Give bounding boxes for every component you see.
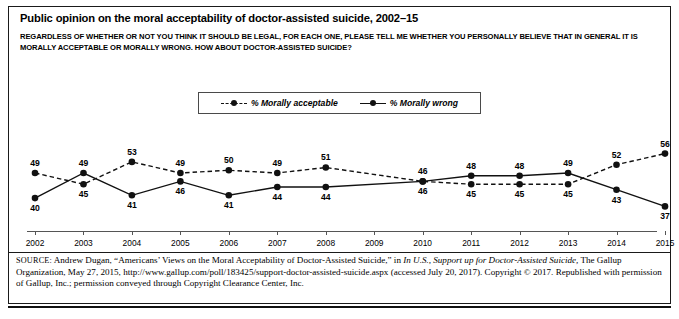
data-label-acceptable: 46 <box>418 166 428 176</box>
chart-svg <box>8 120 671 238</box>
data-point <box>323 164 330 171</box>
source-label: SOURCE: <box>16 256 52 265</box>
legend-label-morally-acceptable: % Morally acceptable <box>251 98 338 108</box>
legend-item-morally-acceptable: % Morally acceptable <box>221 98 338 108</box>
data-point <box>129 159 136 166</box>
x-axis-label-2014: 2014 <box>607 238 626 248</box>
data-label-wrong: 44 <box>273 192 283 202</box>
x-axis-tick <box>423 231 424 235</box>
x-axis-label-2006: 2006 <box>220 238 239 248</box>
x-axis-label-2010: 2010 <box>413 238 432 248</box>
page-title: Public opinion on the moral acceptabilit… <box>20 12 640 25</box>
legend-item-morally-wrong: % Morally wrong <box>360 98 458 108</box>
data-point <box>516 173 523 180</box>
data-label-wrong: 49 <box>79 158 89 168</box>
data-point <box>662 150 669 157</box>
data-label-acceptable: 50 <box>224 155 234 165</box>
data-label-acceptable: 51 <box>321 152 331 162</box>
line-chart-plot <box>8 120 671 238</box>
x-axis-label-2008: 2008 <box>316 238 335 248</box>
legend-label-morally-wrong: % Morally wrong <box>390 98 458 108</box>
data-point <box>226 167 233 174</box>
data-label-wrong: 41 <box>127 200 137 210</box>
data-label-wrong: 48 <box>466 161 476 171</box>
data-label-acceptable: 45 <box>563 189 573 199</box>
x-axis-tick <box>568 231 569 235</box>
data-point <box>177 178 184 185</box>
data-point <box>80 181 87 188</box>
data-label-wrong: 46 <box>418 186 428 196</box>
data-point <box>32 170 39 177</box>
source-note: SOURCE: Andrew Dugan, “Americans’ Views … <box>16 255 664 290</box>
x-axis-tick <box>617 231 618 235</box>
bottom-rule <box>8 306 671 308</box>
data-point <box>468 181 475 188</box>
x-axis-label-2013: 2013 <box>559 238 578 248</box>
data-point <box>565 170 572 177</box>
data-label-acceptable: 45 <box>466 189 476 199</box>
data-label-wrong: 37 <box>660 211 670 221</box>
data-point <box>613 161 620 168</box>
data-point <box>323 184 330 191</box>
dashed-line-marker-icon <box>221 99 247 108</box>
x-axis-label-2009: 2009 <box>365 238 384 248</box>
x-axis-tick <box>180 231 181 235</box>
data-point <box>516 181 523 188</box>
x-axis-label-2002: 2002 <box>26 238 45 248</box>
data-point <box>274 170 281 177</box>
chart-legend: % Morally acceptable % Morally wrong <box>198 92 481 114</box>
x-axis-tick <box>35 231 36 235</box>
data-label-acceptable: 45 <box>515 189 525 199</box>
x-axis-label-2012: 2012 <box>510 238 529 248</box>
x-axis-tick <box>374 231 375 235</box>
data-point <box>662 203 669 210</box>
x-axis-label-2007: 2007 <box>268 238 287 248</box>
x-axis-tick <box>665 231 666 235</box>
data-point <box>177 170 184 177</box>
data-point <box>274 184 281 191</box>
solid-line-marker-icon <box>360 99 386 108</box>
x-axis-tick <box>520 231 521 235</box>
data-label-acceptable: 53 <box>127 147 137 157</box>
x-axis-tick <box>326 231 327 235</box>
data-label-acceptable: 49 <box>176 158 186 168</box>
data-point <box>419 178 426 185</box>
data-point <box>565 181 572 188</box>
data-point <box>129 192 136 199</box>
source-divider <box>9 252 670 253</box>
x-axis-tick <box>471 231 472 235</box>
x-axis-label-2011: 2011 <box>462 238 480 248</box>
data-label-acceptable: 56 <box>660 139 670 149</box>
x-axis-label-2004: 2004 <box>123 238 142 248</box>
data-label-wrong: 49 <box>563 158 573 168</box>
data-point <box>226 192 233 199</box>
x-axis-label-2005: 2005 <box>171 238 190 248</box>
x-axis-line <box>27 231 657 232</box>
x-axis-tick <box>83 231 84 235</box>
data-label-wrong: 41 <box>224 200 234 210</box>
data-label-acceptable: 49 <box>30 158 40 168</box>
data-label-wrong: 44 <box>321 192 331 202</box>
x-axis-tick <box>229 231 230 235</box>
figure-container: Public opinion on the moral acceptabilit… <box>0 0 679 319</box>
data-label-wrong: 46 <box>176 186 186 196</box>
data-label-acceptable: 45 <box>79 189 89 199</box>
data-label-acceptable: 49 <box>273 158 283 168</box>
x-axis-label-2015: 2015 <box>656 238 675 248</box>
x-axis-label-2003: 2003 <box>74 238 93 248</box>
question-text: REGARDLESS OF WHETHER OR NOT YOU THINK I… <box>20 32 660 53</box>
x-axis-tick <box>277 231 278 235</box>
data-label-wrong: 48 <box>515 161 525 171</box>
data-point <box>32 195 39 202</box>
data-point <box>80 170 87 177</box>
x-axis-tick <box>132 231 133 235</box>
source-text-1: Andrew Dugan, “Americans’ Views on the M… <box>52 255 403 265</box>
source-italic-title: In U.S., Support up for Doctor-Assisted … <box>403 255 578 265</box>
data-label-acceptable: 52 <box>612 150 622 160</box>
data-point <box>613 186 620 193</box>
data-label-wrong: 43 <box>612 195 622 205</box>
data-label-wrong: 40 <box>30 203 40 213</box>
data-point <box>468 173 475 180</box>
